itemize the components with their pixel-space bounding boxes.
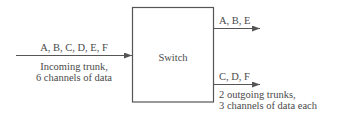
incoming-channels-label: A, B, C, D, E, F — [16, 42, 132, 53]
outgoing-trunk-1-channels: A, B, E — [219, 15, 251, 26]
switch-label: Switch — [132, 52, 214, 63]
outgoing-caption-line1: 2 outgoing trunks, — [219, 89, 296, 100]
outgoing-caption-line2: 3 channels of data each — [219, 100, 317, 111]
incoming-caption-line2: 6 channels of data — [16, 72, 132, 83]
outgoing-trunk-2-channels: C, D, F — [219, 71, 250, 82]
incoming-caption-line1: Incoming trunk, — [16, 61, 132, 72]
